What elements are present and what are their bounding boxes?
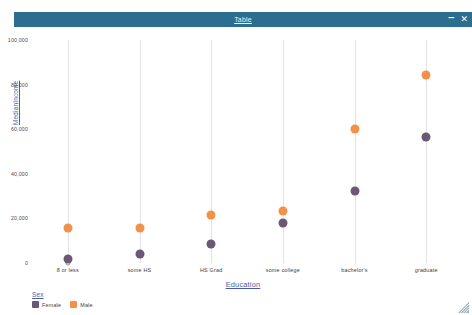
y-axis-tick-label: 100,000 [8, 37, 28, 43]
x-axis-tick-label: HS Grad [200, 267, 222, 273]
chart-area: MedianIncome 020,00040,00060,00080,00010… [14, 27, 472, 315]
legend-title[interactable]: Sex [32, 291, 93, 298]
legend-swatch-icon [70, 301, 77, 308]
data-point[interactable] [135, 250, 144, 259]
legend-items: FemaleMale [32, 301, 93, 308]
x-axis-title[interactable]: Education [14, 280, 472, 289]
y-axis-tick-label: 20,000 [11, 215, 28, 221]
data-point[interactable] [63, 254, 72, 263]
legend-item-label: Female [42, 302, 61, 308]
y-axis-tick-label: 40,000 [11, 171, 28, 177]
legend-item[interactable]: Female [32, 301, 61, 308]
gridline-vertical [355, 40, 356, 263]
chart-window: Table – ✕ MedianIncome 020,00040,00060,0… [14, 12, 472, 315]
data-point[interactable] [350, 125, 359, 134]
x-axis-tick-label: bachelor's [341, 267, 367, 273]
x-axis-tick-label: some HS [128, 267, 152, 273]
x-axis-tick-labels: 8 or lesssome HSHS Gradsome collegebache… [32, 267, 462, 278]
gridline-vertical [283, 40, 284, 263]
window-titlebar[interactable]: Table – ✕ [14, 12, 472, 27]
x-axis-tick-label: some college [266, 267, 300, 273]
plot-area: 020,00040,00060,00080,000100,000 [32, 40, 462, 263]
data-point[interactable] [422, 133, 431, 142]
data-point[interactable] [135, 224, 144, 233]
x-axis-tick-label: 8 or less [57, 267, 79, 273]
data-point[interactable] [350, 186, 359, 195]
y-axis-tick-label: 80,000 [11, 82, 28, 88]
resize-grip-icon[interactable] [457, 301, 470, 314]
gridline-vertical [211, 40, 212, 263]
y-axis-tick-label: 60,000 [11, 126, 28, 132]
x-axis-tick-label: graduate [415, 267, 438, 273]
legend: Sex FemaleMale [32, 291, 93, 308]
close-icon[interactable]: ✕ [460, 15, 468, 24]
window-title: Table [234, 16, 252, 23]
data-point[interactable] [207, 211, 216, 220]
data-point[interactable] [63, 224, 72, 233]
data-point[interactable] [278, 206, 287, 215]
legend-item[interactable]: Male [70, 301, 92, 308]
data-point[interactable] [278, 218, 287, 227]
window-controls: – ✕ [448, 12, 468, 27]
data-point[interactable] [207, 240, 216, 249]
minimize-icon[interactable]: – [448, 13, 454, 22]
legend-swatch-icon [32, 301, 39, 308]
legend-item-label: Male [80, 302, 92, 308]
data-point[interactable] [422, 70, 431, 79]
y-axis-tick-label: 0 [25, 260, 28, 266]
